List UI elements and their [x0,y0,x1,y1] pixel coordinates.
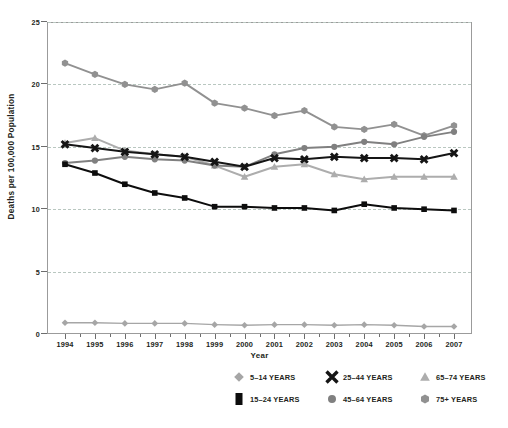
legend-item-65-74-years[interactable]: 65–74 YEARS [414,368,507,386]
legend-row: 5–14 YEARS25–44 YEARS65–74 YEARS [228,366,508,388]
chart-legend: 5–14 YEARS25–44 YEARS65–74 YEARS15–24 YE… [228,366,508,410]
square-marker-icon [228,390,250,408]
series-25-44-years [62,141,458,170]
legend-item-45-64-years[interactable]: 45–64 YEARS [321,390,414,408]
triangle-marker-icon [414,368,436,386]
x-tick-mark-2002 [304,334,305,339]
x-minor-tick [260,334,261,337]
hexagon-marker-icon [414,390,436,408]
legend-item-label: 5–14 YEARS [250,373,295,382]
x-tick-mark-2005 [394,334,395,339]
x-tick-mark-2007 [454,334,455,339]
x-tick-label-2007: 2007 [434,340,474,349]
y-tick-label-15: 15 [0,143,40,152]
x-axis-title: Year [47,351,472,360]
x-minor-tick [230,334,231,337]
x-tick-mark-1994 [65,334,66,339]
y-tick-label-25: 25 [0,18,40,27]
series-75+-years [62,60,457,140]
series-5-14-years [62,319,458,329]
y-tick-label-10: 10 [0,205,40,214]
x-tick-mark-2001 [274,334,275,339]
y-tick-label-5: 5 [0,268,40,277]
x-marker-icon [321,368,343,386]
diamond-marker-icon [228,368,250,386]
x-tick-mark-2000 [245,334,246,339]
x-tick-mark-1998 [185,334,186,339]
legend-item-label: 15–24 YEARS [250,395,300,404]
x-tick-mark-1995 [95,334,96,339]
x-minor-tick [200,334,201,337]
circle-marker-icon [321,390,343,408]
legend-item-5-14-years[interactable]: 5–14 YEARS [228,368,321,386]
chart-series-canvas [47,22,472,334]
y-axis-title: Deaths per 100,000 Population [4,0,18,312]
y-tick-label-0: 0 [0,330,40,339]
legend-item-15-24-years[interactable]: 15–24 YEARS [228,390,321,408]
x-minor-tick [110,334,111,337]
x-tick-mark-1999 [215,334,216,339]
legend-item-25-44-years[interactable]: 25–44 YEARS [321,368,414,386]
x-tick-mark-2006 [424,334,425,339]
x-minor-tick [409,334,410,337]
y-tick-label-20: 20 [0,80,40,89]
x-tick-mark-1997 [155,334,156,339]
legend-item-75+-years[interactable]: 75+ YEARS [414,390,507,408]
series-15-24-years [62,161,457,213]
legend-item-label: 45–64 YEARS [343,395,393,404]
x-minor-tick [379,334,380,337]
legend-item-label: 75+ YEARS [436,395,477,404]
legend-row: 15–24 YEARS45–64 YEARS75+ YEARS [228,388,508,410]
x-tick-mark-1996 [125,334,126,339]
x-minor-tick [140,334,141,337]
x-minor-tick [170,334,171,337]
x-minor-tick [439,334,440,337]
x-minor-tick [349,334,350,337]
x-tick-mark-2004 [364,334,365,339]
chart-page: Deaths per 100,000 Population 2520151050… [0,0,508,428]
legend-item-label: 65–74 YEARS [436,373,486,382]
x-minor-tick [80,334,81,337]
x-minor-tick [289,334,290,337]
x-minor-tick [319,334,320,337]
x-tick-mark-2003 [334,334,335,339]
y-axis-title-text: Deaths per 100,000 Population [7,93,16,219]
legend-item-label: 25–44 YEARS [343,373,393,382]
